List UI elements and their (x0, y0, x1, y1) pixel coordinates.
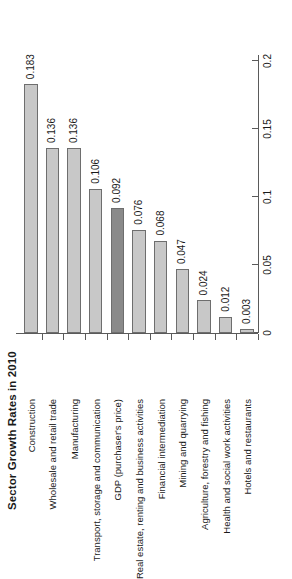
category-tick-mark (236, 334, 237, 340)
value-tick-label: 0 (262, 330, 273, 336)
category-label: Financial intermediation (155, 399, 166, 499)
bar (89, 189, 102, 333)
category-tick-mark (128, 334, 129, 340)
bar-value-label: 0.047 (176, 239, 187, 264)
value-axis-line (258, 55, 259, 333)
category-tick-mark (42, 334, 43, 340)
category-tick-mark (85, 334, 86, 340)
bar-value-label: 0.068 (155, 211, 166, 236)
value-tick-label: 0.2 (262, 54, 273, 68)
value-tick-mark (252, 196, 258, 197)
category-label: GDP (purchaser's price) (112, 399, 123, 500)
category-label: Hotels and restaurants (242, 399, 253, 495)
bar-value-label: 0.136 (46, 118, 57, 143)
bar-value-label: 0.024 (198, 270, 209, 295)
category-label: Agriculture, forestry and fishing (198, 399, 209, 530)
bar-value-label: 0.012 (220, 287, 231, 312)
category-label: Health and social work activities (220, 399, 231, 534)
bar-value-label: 0.183 (25, 54, 36, 79)
category-axis-line (16, 333, 258, 334)
value-tick-label: 0.15 (262, 119, 273, 138)
bar (132, 230, 145, 333)
value-tick-mark (252, 264, 258, 265)
value-tick-label: 0.05 (262, 255, 273, 274)
bar-value-label: 0.106 (90, 159, 101, 184)
bar (176, 269, 189, 333)
bar-value-label: 0.076 (133, 200, 144, 225)
category-tick-mark (258, 334, 259, 340)
bar (240, 329, 253, 333)
chart-title: Sector Growth Rates in 2010 (6, 351, 18, 510)
category-label: Transport, storage and communication (90, 399, 101, 561)
category-label: Real estate, renting and business activi… (134, 399, 145, 579)
category-tick-mark (171, 334, 172, 340)
category-label: Manufacturing (69, 399, 80, 459)
bar (67, 148, 80, 333)
bar-value-label: 0.092 (111, 178, 122, 203)
bar-value-label: 0.003 (241, 299, 252, 324)
bar (197, 300, 210, 333)
value-tick-mark (252, 60, 258, 61)
category-label: Construction (25, 399, 36, 452)
category-label: Mining and quarrying (177, 399, 188, 488)
bar (111, 208, 124, 333)
category-label: Wholesale and retail trade (47, 399, 58, 509)
category-tick-mark (107, 334, 108, 340)
bar (154, 241, 167, 333)
category-tick-mark (215, 334, 216, 340)
category-tick-mark (63, 334, 64, 340)
value-tick-mark (252, 128, 258, 129)
bar (46, 148, 59, 333)
bar (24, 84, 37, 333)
bar-value-label: 0.136 (68, 118, 79, 143)
category-tick-mark (193, 334, 194, 340)
bar (219, 317, 232, 333)
value-tick-label: 0.1 (262, 190, 273, 204)
category-tick-mark (150, 334, 151, 340)
